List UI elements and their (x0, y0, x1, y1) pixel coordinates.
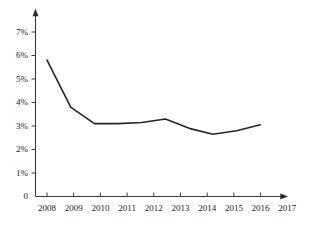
x-tick-label-2017: 2017 (269, 203, 305, 213)
y-tick-label-2: 2% (2, 144, 28, 154)
y-tick-label-7: 7% (2, 27, 28, 37)
y-tick-label-4: 4% (2, 97, 28, 107)
y-axis-ticks (32, 32, 36, 173)
y-tick-label-0: 0 (2, 191, 28, 201)
x-axis-ticks (47, 193, 261, 197)
y-tick-label-1: 1% (2, 168, 28, 178)
line-chart: 7% 6% 5% 4% 3% 2% 1% 0 2008 2009 2010 20… (0, 0, 309, 229)
y-tick-label-5: 5% (2, 74, 28, 84)
y-tick-label-6: 6% (2, 50, 28, 60)
chart-plot-area (0, 0, 309, 229)
data-series-line (47, 60, 260, 134)
y-tick-label-3: 3% (2, 121, 28, 131)
